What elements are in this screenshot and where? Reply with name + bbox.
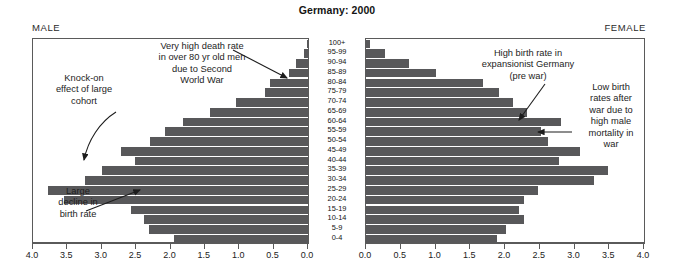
tick-0.5	[400, 243, 401, 249]
bar-male-10-14	[144, 215, 308, 224]
tick-1.5	[469, 243, 470, 249]
tick-label-0.5: 0.5	[393, 250, 406, 260]
bar-male-95-99	[304, 49, 308, 58]
age-group-axis: 100+95-9990-9485-8980-8475-7970-7465-696…	[309, 38, 365, 243]
age-label-50-54: 50-54	[309, 136, 365, 145]
age-label-5-9: 5-9	[309, 224, 365, 233]
tick-label-2.0: 2.0	[163, 250, 176, 260]
tick-1.0	[435, 243, 436, 249]
age-label-95-99: 95-99	[309, 48, 365, 57]
age-label-60-64: 60-64	[309, 117, 365, 126]
age-label-80-84: 80-84	[309, 78, 365, 87]
age-label-90-94: 90-94	[309, 58, 365, 67]
age-label-0-4: 0-4	[309, 234, 365, 243]
tick-label-3.0: 3.0	[567, 250, 580, 260]
bar-female-10-14	[366, 215, 524, 224]
bar-male-15-19	[131, 206, 308, 215]
bar-female-45-49	[366, 147, 580, 156]
age-label-85-89: 85-89	[309, 68, 365, 77]
male-axis-line	[32, 243, 309, 244]
female-axis-line	[365, 243, 645, 244]
age-label-15-19: 15-19	[309, 205, 365, 214]
bar-female-90-94	[366, 59, 409, 68]
bar-female-60-64	[366, 118, 561, 127]
tick-3.5	[608, 243, 609, 249]
annotation-war-deaths: Very high death rate in over 80 yr old m…	[128, 41, 276, 87]
tick-label-4.0: 4.0	[26, 250, 39, 260]
male-x-tick-labels: 4.03.53.02.52.01.51.00.50.0	[32, 250, 309, 264]
tick-label-4.0: 4.0	[637, 250, 650, 260]
female-side-label: FEMALE	[604, 22, 646, 33]
bar-male-100plus	[307, 40, 308, 49]
age-label-20-24: 20-24	[309, 195, 365, 204]
tick-0.5	[273, 243, 274, 249]
annotation-knock-on: Knock-on effect of large cohort	[30, 73, 138, 107]
tick-2.5	[539, 243, 540, 249]
tick-3.0	[574, 243, 575, 249]
age-label-30-34: 30-34	[309, 175, 365, 184]
bar-female-65-69	[366, 108, 527, 117]
bar-male-65-69	[210, 108, 308, 117]
tick-2.5	[135, 243, 136, 249]
tick-2.0	[504, 243, 505, 249]
bar-female-5-9	[366, 225, 506, 234]
bar-male-30-34	[85, 176, 308, 185]
bar-male-75-79	[265, 88, 308, 97]
tick-label-0.0: 0.0	[359, 250, 372, 260]
bar-male-5-9	[149, 225, 309, 234]
age-label-45-49: 45-49	[309, 146, 365, 155]
bar-male-60-64	[183, 118, 308, 127]
bar-male-70-74	[236, 98, 308, 107]
bar-female-30-34	[366, 176, 594, 185]
chart-title: Germany: 2000	[0, 4, 674, 16]
tick-label-2.5: 2.5	[129, 250, 142, 260]
tick-label-0.5: 0.5	[266, 250, 279, 260]
tick-3.0	[101, 243, 102, 249]
annotation-birth-decline: Large decline in birth rate	[36, 186, 120, 220]
bar-female-95-99	[366, 49, 385, 58]
tick-2.0	[170, 243, 171, 249]
age-label-65-69: 65-69	[309, 107, 365, 116]
bar-female-50-54	[366, 137, 548, 146]
tick-label-1.0: 1.0	[428, 250, 441, 260]
tick-label-3.0: 3.0	[94, 250, 107, 260]
tick-4.0	[32, 243, 33, 249]
bar-female-75-79	[366, 88, 499, 97]
tick-3.5	[66, 243, 67, 249]
bar-female-70-74	[366, 98, 513, 107]
tick-label-3.5: 3.5	[60, 250, 73, 260]
bar-female-15-19	[366, 206, 519, 215]
age-label-10-14: 10-14	[309, 214, 365, 223]
age-label-70-74: 70-74	[309, 97, 365, 106]
tick-label-1.0: 1.0	[232, 250, 245, 260]
tick-label-2.5: 2.5	[532, 250, 545, 260]
bar-male-35-39	[102, 166, 308, 175]
age-label-40-44: 40-44	[309, 156, 365, 165]
age-label-35-39: 35-39	[309, 165, 365, 174]
bar-female-40-44	[366, 157, 559, 166]
tick-label-2.0: 2.0	[498, 250, 511, 260]
age-label-25-29: 25-29	[309, 185, 365, 194]
annotation-low-birth: Low birth rates after war due to high ma…	[570, 82, 652, 150]
tick-label-3.5: 3.5	[602, 250, 615, 260]
bar-female-35-39	[366, 166, 608, 175]
tick-0.0	[307, 243, 308, 249]
bar-male-50-54	[150, 137, 308, 146]
bar-male-85-89	[289, 69, 308, 78]
tick-0.0	[365, 243, 366, 249]
tick-4.0	[643, 243, 644, 249]
male-side-label: MALE	[32, 22, 60, 33]
bar-female-100plus	[366, 40, 370, 49]
tick-label-0.0: 0.0	[301, 250, 314, 260]
age-label-55-59: 55-59	[309, 126, 365, 135]
bar-female-55-59	[366, 127, 541, 136]
annotation-high-birth: High birth rate in expansionist Germany …	[452, 48, 604, 82]
population-pyramid-chart: Germany: 2000 MALE FEMALE 100+95-9990-94…	[0, 0, 674, 276]
tick-1.5	[204, 243, 205, 249]
age-label-100plus: 100+	[309, 39, 365, 48]
bar-female-20-24	[366, 196, 524, 205]
bar-male-90-94	[296, 59, 308, 68]
bar-male-45-49	[121, 147, 308, 156]
bar-male-55-59	[165, 127, 308, 136]
female-x-tick-labels: 0.00.51.01.52.02.53.03.54.0	[365, 250, 645, 264]
